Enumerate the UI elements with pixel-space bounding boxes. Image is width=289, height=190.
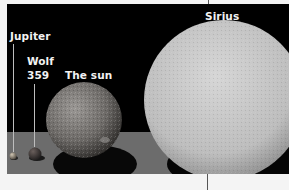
label-wolf-line2: 359 bbox=[27, 69, 49, 82]
jupiter-sphere bbox=[10, 153, 17, 160]
wolf359-leader-line bbox=[34, 84, 35, 147]
label-wolf-line1: Wolf bbox=[27, 55, 54, 68]
jupiter-leader-line bbox=[13, 44, 14, 152]
label-jupiter: Jupiter bbox=[10, 30, 51, 43]
label-sun: The sun bbox=[65, 69, 112, 82]
label-sirius: Sirius bbox=[205, 10, 239, 23]
size-comparison-figure: Jupiter Wolf 359 The sun Sirius bbox=[7, 4, 289, 174]
bottom-divider-tick bbox=[207, 174, 208, 190]
wolf359-sphere bbox=[29, 148, 42, 161]
